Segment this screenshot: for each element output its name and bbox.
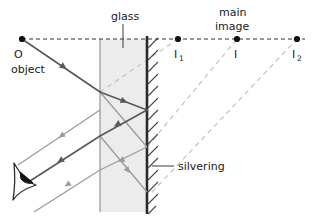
point-dots: [19, 36, 300, 42]
glass-label: glass: [111, 10, 140, 23]
svg-text:I: I: [292, 48, 295, 61]
secondary-exit-ray-lower: [34, 170, 100, 212]
exit-ray-to-eye: [30, 136, 100, 181]
silvering-label: silvering: [178, 160, 225, 173]
svg-text:2: 2: [297, 54, 302, 63]
image-main-label: I: [234, 48, 237, 61]
object-label-word: object: [11, 63, 46, 76]
diagram-canvas: glass main image O object I 1 I I 2 silv…: [0, 0, 312, 216]
main-image-label-line2: image: [215, 20, 249, 33]
image-point-I1: [175, 36, 181, 42]
virtual-ray-to-I: [147, 39, 237, 147]
silvering-layer: [147, 36, 158, 214]
image2-label: I 2: [292, 48, 302, 63]
observer-eye: [13, 163, 36, 200]
svg-text:1: 1: [179, 54, 184, 63]
svg-text:I: I: [174, 48, 177, 61]
silvering-hatching: [148, 38, 158, 214]
optics-ray-diagram: glass main image O object I 1 I I 2 silv…: [0, 0, 312, 216]
image1-label: I 1: [174, 48, 184, 63]
object-label-letter: O: [14, 48, 23, 61]
object-point-O: [19, 36, 25, 42]
image-point-I2: [294, 36, 300, 42]
image-point-I: [234, 36, 240, 42]
main-image-label-line1: main: [219, 6, 247, 19]
eye-pupil: [20, 172, 33, 183]
